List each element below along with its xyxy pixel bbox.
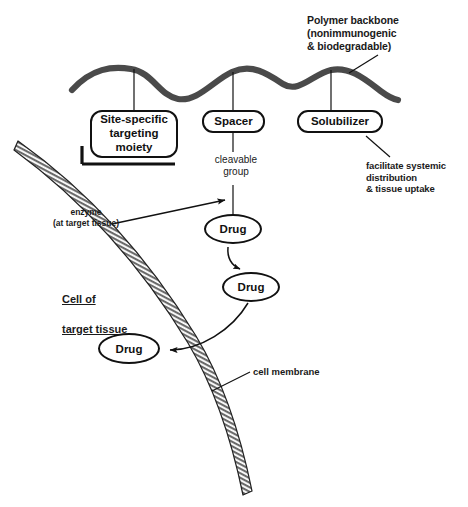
drug-node-internalized[interactable]: Drug [98,333,160,364]
enzyme-label: enzyme (at target tissue) [43,207,129,229]
polymer-backbone-leader [349,55,378,73]
drug-node-conjugated[interactable]: Drug [204,214,262,244]
polymer-backbone-label: Polymer backbone (nonimmunogenic & biode… [307,14,399,52]
solubilizer-note-label: facilitate systemic distribution & tissu… [366,160,446,195]
component-box-targeting-moiety[interactable]: Site-specific targeting moiety [90,110,178,158]
component-box-solubilizer[interactable]: Solubilizer [297,110,383,133]
cell-of-target-tissue-line1: Cell of [62,292,127,307]
component-box-spacer[interactable]: Spacer [202,110,265,133]
drug-release-arrow [228,247,240,269]
drug-node-released[interactable]: Drug [222,272,280,302]
diagram-vector-layer [0,0,468,507]
cell-membrane-band [14,141,252,495]
cell-membrane-label: cell membrane [253,366,320,378]
cleavable-group-label: cleavable group [204,154,268,178]
solubilizer-leader [366,136,390,157]
diagram-canvas: Polymer backbone (nonimmunogenic & biode… [0,0,468,507]
